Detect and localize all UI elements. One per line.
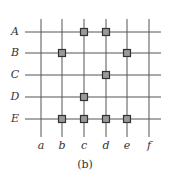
node-Ec — [81, 116, 88, 123]
col-label-f: f — [143, 140, 155, 151]
grid-diagram — [0, 0, 170, 181]
col-label-c: c — [78, 140, 90, 151]
row-label-e: E — [9, 113, 21, 124]
row-label-c: C — [9, 69, 21, 80]
node-Bb — [59, 50, 66, 57]
node-Be — [124, 50, 131, 57]
figure-caption: (b) — [0, 158, 170, 171]
col-label-b: b — [56, 140, 68, 151]
node-Cd — [103, 72, 110, 79]
node-Ee — [124, 116, 131, 123]
row-label-d: D — [9, 91, 21, 102]
row-label-a: A — [9, 26, 21, 37]
node-Ad — [103, 29, 110, 36]
node-Ac — [81, 29, 88, 36]
col-label-d: d — [100, 140, 112, 151]
row-label-b: B — [9, 47, 21, 58]
node-Dc — [81, 94, 88, 101]
node-Ed — [103, 116, 110, 123]
col-label-a: a — [35, 140, 47, 151]
col-label-e: e — [121, 140, 133, 151]
node-Eb — [59, 116, 66, 123]
